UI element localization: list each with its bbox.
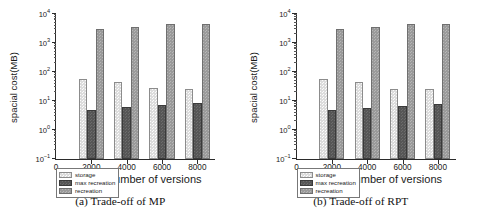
y-minor-tick: [54, 48, 57, 49]
legend-item-recreation: recreation: [59, 187, 115, 194]
y-minor-tick: [54, 18, 57, 19]
y-tick-label-3: 102: [39, 68, 50, 77]
y-minor-tick: [54, 135, 57, 136]
y-minor-tick: [54, 22, 57, 23]
legend-label-storage: storage: [75, 171, 95, 178]
chart-panel-a: spacial cost(MB) 0 10−110010110210310420…: [0, 0, 241, 218]
bar-storage-6000: [149, 88, 157, 159]
bar-recreation-8000: [442, 24, 450, 159]
bar-storage-2000: [79, 79, 87, 159]
y-minor-tick: [54, 112, 57, 113]
y-tick-2: [52, 100, 57, 101]
legend-label-max-recreation: max recreation: [316, 179, 356, 186]
y-minor-tick: [54, 141, 57, 142]
x-axis-title-a: number of versions: [108, 173, 202, 185]
y-minor-tick: [294, 144, 297, 145]
y-tick-label-5: 104: [39, 10, 50, 19]
x-tick-label-2: 6000: [153, 163, 171, 172]
bars-layer-b: [297, 14, 456, 159]
y-tick-4: [292, 42, 297, 43]
y-minor-tick: [294, 115, 297, 116]
y-tick-3: [292, 71, 297, 72]
bar-recreation-4000: [131, 27, 139, 159]
y-minor-tick: [54, 130, 57, 131]
y-tick-2: [292, 100, 297, 101]
y-minor-tick: [294, 86, 297, 87]
y-axis-title-label-b: spacial cost(MB): [248, 52, 259, 123]
y-tick-label-1: 100: [39, 126, 50, 135]
y-tick-label-3: 102: [279, 68, 290, 77]
y-tick-label-4: 103: [279, 39, 290, 48]
y-minor-tick: [54, 103, 57, 104]
y-minor-tick: [294, 43, 297, 44]
y-minor-tick: [54, 57, 57, 58]
y-minor-tick: [54, 149, 57, 150]
y-minor-tick: [294, 105, 297, 106]
y-axis-title-label-a: spacial cost(MB): [8, 52, 19, 123]
legend-swatch-storage: [300, 172, 313, 178]
y-minor-tick: [54, 28, 57, 29]
legend-label-recreation: recreation: [75, 187, 102, 194]
y-tick-3: [52, 71, 57, 72]
chart-panel-b: spacial cost(MB) 0 10−110010110210310420…: [241, 0, 481, 218]
y-minor-tick: [294, 22, 297, 23]
y-minor-tick: [294, 83, 297, 84]
bar-recreation-2000: [96, 29, 104, 159]
y-minor-tick: [294, 138, 297, 139]
x-tick-label-3: 8000: [429, 163, 447, 172]
y-minor-tick: [54, 76, 57, 77]
bar-recreation-6000: [166, 24, 174, 159]
x-tick-label-2: 6000: [393, 163, 411, 172]
y-minor-tick: [54, 144, 57, 145]
y-tick-5: [292, 13, 297, 14]
x-axis-title-b: number of versions: [349, 173, 443, 185]
bar-max-recreation-4000: [363, 108, 371, 159]
y-minor-tick: [54, 51, 57, 52]
y-minor-tick: [54, 16, 57, 17]
y-tick-5: [52, 13, 57, 14]
y-minor-tick: [54, 115, 57, 116]
y-tick-label-0: 10−1: [36, 155, 50, 164]
y-minor-tick: [54, 47, 57, 48]
legend-swatch-recreation: [59, 188, 72, 194]
y-minor-tick: [294, 57, 297, 58]
y-tick-0: [52, 158, 57, 159]
y-minor-tick: [54, 43, 57, 44]
y-minor-tick: [294, 135, 297, 136]
y-minor-tick: [294, 19, 297, 20]
bar-recreation-8000: [202, 24, 210, 159]
y-minor-tick: [294, 141, 297, 142]
y-minor-tick: [54, 19, 57, 20]
figure-row: spacial cost(MB) 0 10−110010110210310420…: [0, 0, 481, 218]
y-minor-tick: [54, 62, 57, 63]
bar-max-recreation-4000: [122, 107, 130, 159]
y-tick-label-4: 103: [39, 39, 50, 48]
bar-recreation-4000: [371, 27, 379, 159]
y-minor-tick: [294, 149, 297, 150]
y-minor-tick: [294, 16, 297, 17]
y-minor-tick: [54, 72, 57, 73]
bar-storage-4000: [355, 82, 363, 159]
y-minor-tick: [54, 54, 57, 55]
plot-area-b: 0 10−11001011021031042000400060008000: [296, 14, 456, 160]
y-axis-title-b: spacial cost(MB): [247, 14, 261, 160]
bar-max-recreation-2000: [87, 110, 95, 159]
y-tick-1: [292, 129, 297, 130]
bar-recreation-2000: [336, 29, 344, 159]
bar-max-recreation-6000: [158, 105, 166, 159]
legend-b: storagemax recreationrecreation: [297, 168, 360, 198]
y-minor-tick: [54, 77, 57, 78]
legend-a: storagemax recreationrecreation: [56, 168, 119, 198]
caption-b: (b) Trade-off of RPT: [241, 195, 481, 207]
bar-storage-8000: [425, 89, 433, 159]
legend-label-max-recreation: max recreation: [75, 179, 115, 186]
legend-item-max-recreation: max recreation: [59, 179, 115, 186]
legend-item-recreation: recreation: [300, 187, 356, 194]
y-minor-tick: [294, 80, 297, 81]
y-minor-tick: [294, 72, 297, 73]
y-minor-tick: [54, 80, 57, 81]
legend-item-storage: storage: [59, 171, 115, 178]
y-axis-title-a: spacial cost(MB): [6, 14, 20, 160]
caption-a: (a) Trade-off of MP: [0, 195, 241, 207]
plot-area-a: 0 10−11001011021031042000400060008000: [55, 14, 215, 160]
